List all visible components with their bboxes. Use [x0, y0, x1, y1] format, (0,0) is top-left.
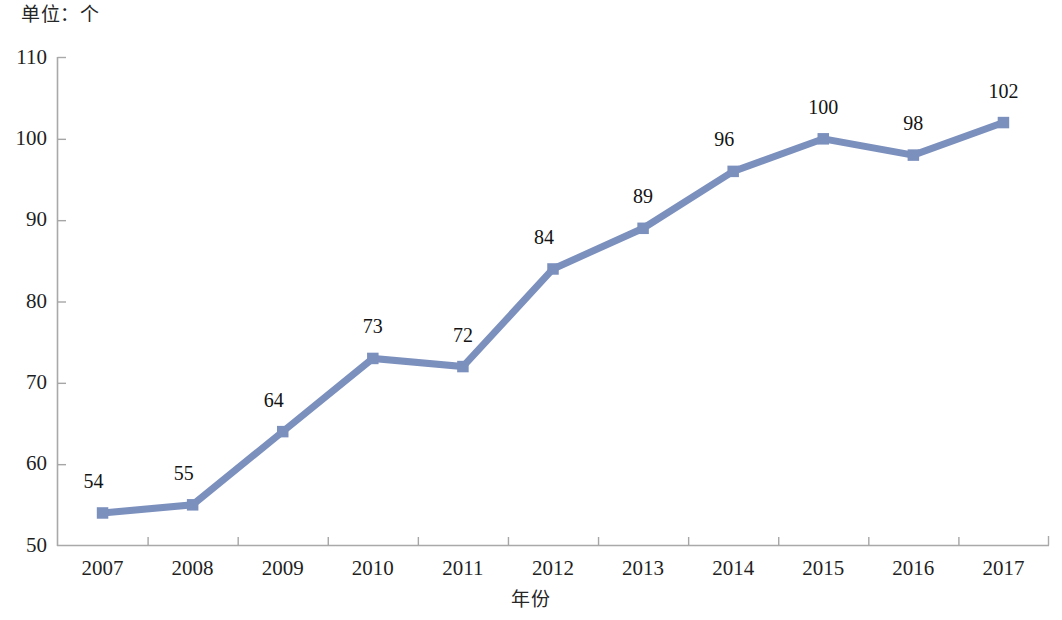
data-marker — [367, 353, 379, 365]
x-axis-tick-label: 2016 — [868, 558, 958, 579]
x-axis-tick-label: 2007 — [58, 558, 148, 579]
data-marker — [818, 133, 830, 145]
data-point-label: 89 — [633, 186, 653, 206]
data-marker — [97, 507, 109, 518]
x-axis-tick-label: 2009 — [238, 558, 328, 579]
data-point-label: 73 — [363, 316, 383, 336]
x-axis-tick-label: 2015 — [778, 558, 868, 579]
y-axis-tick-label: 80 — [3, 291, 47, 312]
data-marker — [277, 426, 289, 438]
data-marker — [727, 166, 739, 178]
data-marker — [547, 263, 559, 275]
x-axis-tick-label: 2013 — [598, 558, 688, 579]
data-point-label: 100 — [808, 97, 838, 117]
x-axis-tick-label: 2014 — [688, 558, 778, 579]
data-point-label: 55 — [174, 463, 194, 483]
data-point-label: 84 — [534, 227, 554, 247]
line-chart: 单位：个 年份 1101009080706050 200720082009201… — [0, 0, 1062, 620]
x-axis-tick-label: 2012 — [508, 558, 598, 579]
y-axis-ticks — [58, 139, 67, 464]
plot-area — [0, 0, 1062, 620]
data-marker — [908, 149, 920, 161]
x-axis-tick-label: 2008 — [148, 558, 238, 579]
data-point-label: 72 — [453, 325, 473, 345]
data-point-label: 96 — [714, 129, 734, 149]
data-line — [103, 123, 1004, 513]
x-axis-tick-label: 2011 — [418, 558, 508, 579]
y-axis-tick-label: 90 — [3, 209, 47, 230]
y-axis-tick-label: 50 — [3, 535, 47, 556]
y-axis-tick-label: 100 — [3, 128, 47, 149]
data-point-label: 98 — [903, 113, 923, 133]
data-marker — [187, 499, 199, 511]
data-marker — [637, 223, 649, 235]
y-axis-tick-label: 70 — [3, 372, 47, 393]
x-axis-ticks — [148, 537, 959, 546]
data-marker — [457, 361, 469, 373]
data-point-label: 54 — [84, 471, 104, 491]
data-point-label: 102 — [988, 81, 1018, 101]
data-markers — [97, 117, 1009, 519]
y-axis-tick-label: 60 — [3, 453, 47, 474]
data-point-label: 64 — [264, 390, 284, 410]
y-axis-tick-label: 110 — [3, 47, 47, 68]
data-marker — [998, 117, 1010, 129]
x-axis-tick-label: 2010 — [328, 558, 418, 579]
axes — [57, 57, 1049, 546]
x-axis-tick-label: 2017 — [958, 558, 1048, 579]
